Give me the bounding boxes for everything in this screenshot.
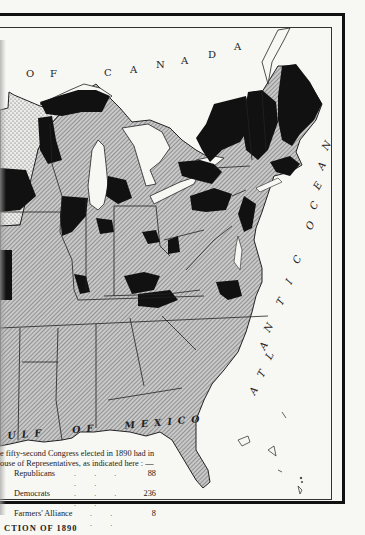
canada-letter-f: F [50,68,57,79]
legend-leader-dots: . . . . . [74,469,134,489]
legend-leader-dots: . . . . [90,509,134,529]
legend-leader-dots: . . . . . [74,489,134,509]
legend-row-republicans: Republicans . . . . . 88 [0,469,200,489]
canada-letter-a: A [130,64,137,75]
legend-intro-line2: ouse of Representatives, as indicated he… [0,459,200,469]
seat-legend: e fifty-second Congress elected in 1890 … [0,449,200,529]
legend-count: 88 [134,469,156,489]
canada-letter-o: O [26,68,34,79]
legend-party: Republicans [14,469,74,489]
scan-edge-shadow [0,40,6,515]
canada-letter-a2: A [181,55,188,66]
map-title: CTION OF 1890 [4,523,78,533]
legend-count: 236 [134,489,156,509]
canada-letter-d: D [208,49,216,60]
legend-count: 8 [134,509,156,529]
map-page: O F C A N A D A A T L A N T I C O C E A … [0,0,365,535]
maine-republican [278,64,322,146]
legend-row-democrats: Democrats . . . . . 236 [0,489,200,509]
legend-intro-line1: e fifty-second Congress elected in 1890 … [0,449,200,459]
canada-letter-c: C [104,67,112,78]
bahamas-islands [238,412,303,494]
canada-letter-n: N [156,59,165,70]
legend-party: Democrats [14,489,74,509]
canada-letter-a3: A [234,41,241,52]
